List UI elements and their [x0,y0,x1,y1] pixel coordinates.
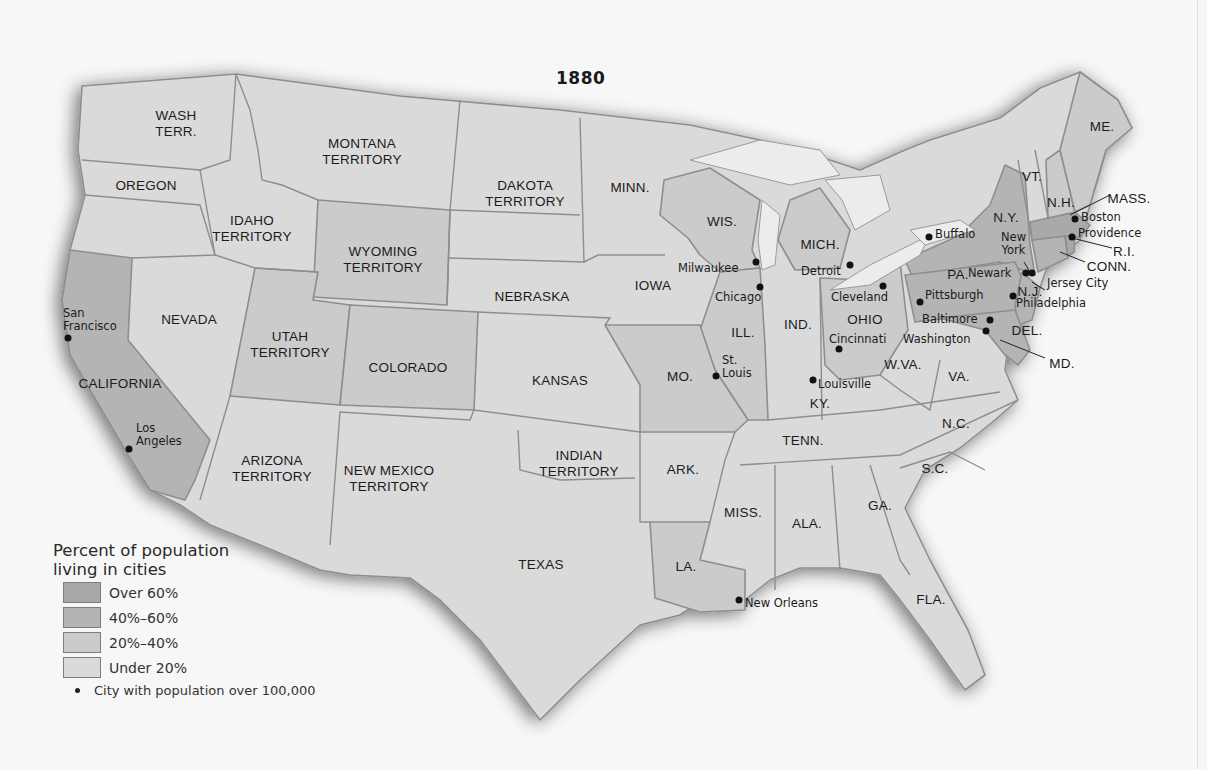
city-dot-san-francisco [65,335,72,342]
label-mass: MASS. [1107,191,1150,207]
label-minn: MINN. [610,180,649,196]
legend-swatch-over-60 [63,582,101,603]
city-dot-cincinnati [836,346,843,353]
city-dot-los-angeles [126,446,133,453]
label-wash-terr: WASHTERR. [155,108,197,140]
label-montana: MONTANATERRITORY [322,136,401,168]
label-dakota: DAKOTATERRITORY [485,178,564,210]
legend-swatch-20-40 [63,632,101,653]
label-mich: MICH. [800,237,839,253]
city-label-cincinnati: Cincinnati [829,333,886,346]
label-ala: ALA. [792,516,822,532]
label-del: DEL. [1012,323,1043,339]
label-nc: N.C. [942,416,970,432]
city-dot-buffalo [926,234,933,241]
legend-swatch-under-20 [63,657,101,678]
label-wva: W.VA. [884,357,922,373]
label-oregon: OREGON [115,178,176,194]
city-label-los-angeles: LosAngeles [136,422,182,448]
label-conn: CONN. [1087,259,1132,275]
label-california: CALIFORNIA [78,376,161,392]
label-ri: R.I. [1113,244,1135,260]
label-iowa: IOWA [635,278,671,294]
label-indian-territory: INDIANTERRITORY [539,448,618,480]
city-dot-washington [983,328,990,335]
city-label-st-louis: St.Louis [722,354,752,380]
legend-swatch-40-60 [63,607,101,628]
city-dot-new-york [1029,270,1036,277]
legend-city-symbol: City with population over 100,000 [53,683,316,698]
city-label-newark: Newark [968,267,1012,280]
city-dot-detroit [847,262,854,269]
urbanization-map-1880: 1880 WASHTERR. OREGON IDAHOTERRITORY MON… [0,0,1207,770]
city-label-louisville: Louisville [818,378,871,391]
label-nh: N.H. [1047,195,1075,211]
city-label-san-francisco: SanFrancisco [63,307,117,333]
label-tenn: TENN. [782,433,824,449]
label-idaho: IDAHOTERRITORY [212,213,291,245]
connecticut-shape [1032,236,1068,272]
city-label-cleveland: Cleveland [831,291,888,304]
legend-item-20-40: 20%–40% [53,631,316,654]
city-label-washington: Washington [903,333,971,346]
city-dot-icon [75,688,80,693]
city-dot-milwaukee [753,259,760,266]
city-label-buffalo: Buffalo [935,228,975,241]
city-label-philadelphia: Philadelphia [1016,297,1086,310]
label-me: ME. [1090,119,1115,135]
city-dot-louisville [810,377,817,384]
label-wyoming: WYOMINGTERRITORY [343,244,422,276]
city-dot-providence [1069,234,1076,241]
map-legend: Percent of population living in cities O… [53,541,316,698]
label-ny: N.Y. [993,210,1018,226]
legend-title-line1: Percent of population [53,541,316,560]
legend-item-40-60: 40%–60% [53,606,316,629]
label-nebraska: NEBRASKA [494,289,569,305]
label-miss: MISS. [724,505,762,521]
city-label-jersey-city: Jersey City [1047,277,1108,290]
label-ill: ILL. [731,325,754,341]
city-label-new-york: NewYork [1001,231,1026,257]
city-label-baltimore: Baltimore [922,313,978,326]
city-label-chicago: Chicago [715,291,761,304]
city-label-new-orleans: New Orleans [745,597,818,610]
label-ga: GA. [868,498,892,514]
city-label-boston: Boston [1081,211,1121,224]
city-dot-st-louis [713,373,720,380]
city-label-detroit: Detroit [801,265,841,278]
label-utah: UTAHTERRITORY [250,329,329,361]
label-mo: MO. [667,369,693,385]
legend-item-over-60: Over 60% [53,581,316,604]
legend-title-line2: living in cities [53,560,316,579]
city-dot-baltimore [987,317,994,324]
city-dot-pittsburgh [917,299,924,306]
label-md: MD. [1049,356,1074,372]
label-va: VA. [948,369,969,385]
label-ky: KY. [810,396,831,412]
label-nevada: NEVADA [161,312,217,328]
map-title: 1880 [556,68,605,88]
label-sc: S.C. [921,461,948,477]
label-la: LA. [676,559,697,575]
colorado-shape [340,305,478,410]
city-dot-boston [1072,216,1079,223]
label-pa: PA. [947,267,968,283]
label-ark: ARK. [667,462,699,478]
city-dot-new-orleans [736,597,743,604]
label-arizona: ARIZONATERRITORY [232,453,311,485]
city-label-pittsburgh: Pittsburgh [925,289,984,302]
label-fla: FLA. [916,592,945,608]
label-ohio: OHIO [847,312,882,328]
city-dot-cleveland [880,283,887,290]
city-label-milwaukee: Milwaukee [678,262,738,275]
label-vt: VT. [1022,169,1042,185]
city-label-providence: Providence [1078,227,1141,240]
legend-item-under-20: Under 20% [53,656,316,679]
label-ind: IND. [784,317,812,333]
label-new-mexico: NEW MEXICOTERRITORY [344,463,435,495]
label-texas: TEXAS [518,557,563,573]
label-colorado: COLORADO [369,360,448,376]
page-edge-divider [1197,0,1198,770]
label-wis: WIS. [707,214,737,230]
label-kansas: KANSAS [532,373,588,389]
